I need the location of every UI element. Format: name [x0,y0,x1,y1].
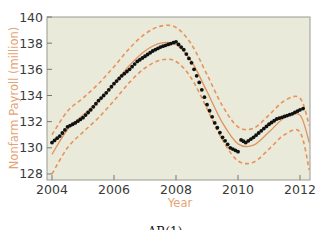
x-tick-label: 2010 [222,182,254,197]
x-tick-label: 2008 [160,182,192,197]
data-point [218,131,222,135]
y-tick-label: 130 [19,140,43,155]
data-point [63,128,67,132]
data-point [197,81,201,85]
data-point [89,108,93,112]
y-tick-label: 138 [19,36,43,51]
data-point [91,105,95,109]
data-point [184,52,188,56]
data-point [226,142,230,146]
data-point [190,61,194,65]
data-point [58,134,62,138]
y-axis-title: Nonfarm Payroll (million) [7,27,21,170]
x-axis-title: Year [167,196,193,210]
data-point [94,102,98,106]
data-point [236,150,240,154]
y-tick-label: 132 [19,114,43,129]
data-point [205,103,209,107]
y-tick-label: 134 [19,88,43,103]
data-point [221,135,225,139]
plot-background [47,17,310,180]
data-point [200,88,204,92]
chart: 128130132134136138140 200420062008201020… [0,0,327,230]
y-tick-label: 136 [19,62,43,77]
data-point [301,107,305,111]
x-tick-label: 2012 [284,182,316,197]
data-point [187,57,191,61]
data-point [223,139,227,143]
y-tick-label: 140 [19,10,43,25]
data-point [210,115,214,119]
data-point [192,67,196,71]
data-point [110,85,114,89]
x-tick-label: 2006 [98,182,130,197]
data-point [208,109,212,113]
x-tick-label: 2004 [36,182,68,197]
data-point [215,126,219,130]
data-point [213,121,217,125]
data-point [60,131,64,135]
data-point [203,95,207,99]
data-point [104,91,108,95]
data-point [182,48,186,52]
data-point [107,88,111,92]
chart-caption: AR(1) [147,225,183,230]
y-tick-label: 128 [19,166,43,181]
data-point [195,74,199,78]
